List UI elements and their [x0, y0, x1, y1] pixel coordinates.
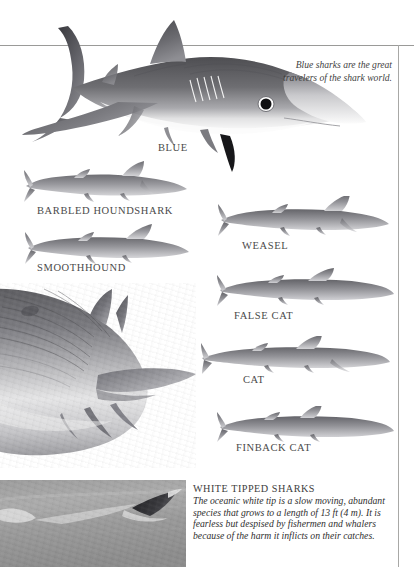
- species-label-false-cat: FALSE CAT: [234, 310, 293, 321]
- silhouette-barbled-houndshark: [22, 160, 192, 202]
- species-label-cat: CAT: [243, 374, 265, 385]
- blue-shark-quote: Blue sharks are the great travelers of t…: [274, 58, 392, 84]
- species-label-weasel: WEASEL: [242, 240, 288, 251]
- info-body: The oceanic white tip is a slow moving, …: [193, 495, 391, 541]
- species-label-barbled-houndshark: BARBLED HOUNDSHARK: [37, 205, 173, 216]
- info-heading: WHITE TIPPED SHARKS: [193, 483, 391, 494]
- silhouette-smoothhound: [22, 224, 192, 264]
- silhouette-false-cat: [216, 268, 394, 306]
- white-tipped-sharks-info: WHITE TIPPED SHARKS The oceanic white ti…: [193, 483, 391, 541]
- silhouette-finback-cat: [216, 406, 394, 442]
- species-label-blue: BLUE: [158, 142, 188, 153]
- shark-species-page: Blue sharks are the great travelers of t…: [0, 0, 414, 567]
- engraving-texture: [0, 283, 196, 468]
- right-vertical-rule: [398, 45, 399, 567]
- species-label-finback-cat: FINBACK CAT: [236, 442, 311, 453]
- large-shark-engraving: [0, 283, 196, 468]
- blue-shark-illustration: [14, 6, 374, 186]
- silhouette-weasel: [216, 196, 391, 236]
- white-tip-shark-photograph: [0, 480, 186, 567]
- photograph-grain: [0, 480, 186, 567]
- silhouette-cat: [200, 336, 390, 374]
